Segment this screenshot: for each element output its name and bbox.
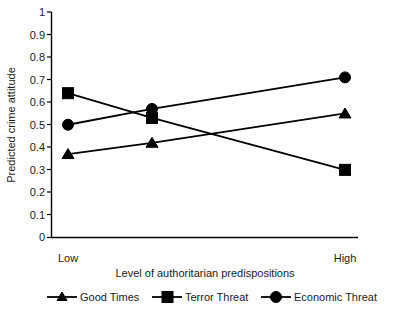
- series-line-terror-threat: [68, 93, 345, 170]
- y-axis-title: Predicted crime attitude: [5, 67, 17, 183]
- chart-legend: Good Times Terror Threat Economic Threat: [47, 291, 377, 303]
- series-markers-economic-threat: [63, 72, 351, 130]
- y-tick-label: 0.6: [30, 96, 45, 108]
- y-tick-label: 0.4: [30, 141, 45, 153]
- y-tick-label: 1: [39, 6, 45, 18]
- legend-label: Economic Threat: [294, 291, 377, 303]
- y-tick-label: 0.5: [30, 119, 45, 131]
- circle-icon: [271, 292, 282, 303]
- series-line-economic-threat: [68, 77, 345, 124]
- data-point-marker: [339, 108, 351, 118]
- data-point-marker: [147, 103, 158, 114]
- data-point-marker: [63, 119, 74, 130]
- y-tick-label: 0: [39, 231, 45, 243]
- legend-label: Terror Threat: [185, 291, 248, 303]
- line-chart-svg: Predicted crime attitude 1 0.9 0.8 0.7 0…: [0, 0, 400, 310]
- x-axis-title: Level of authoritarian predispositions: [115, 267, 295, 279]
- series-line-good-times: [68, 113, 345, 154]
- legend-label: Good Times: [80, 291, 140, 303]
- legend-item-economic-threat[interactable]: Economic Threat: [261, 291, 377, 303]
- series-economic-threat: [63, 72, 351, 130]
- y-tick-label: 0.9: [30, 29, 45, 41]
- y-tick-label: 0.3: [30, 164, 45, 176]
- chart-figure: Predicted crime attitude 1 0.9 0.8 0.7 0…: [0, 0, 400, 310]
- legend-item-terror-threat[interactable]: Terror Threat: [152, 291, 248, 303]
- y-tick-label: 0.8: [30, 51, 45, 63]
- y-tick-label: 0.2: [30, 186, 45, 198]
- y-tick-label: 0.7: [30, 74, 45, 86]
- data-point-marker: [63, 88, 74, 99]
- y-tick-label: 0.1: [30, 209, 45, 221]
- data-point-marker: [340, 72, 351, 83]
- data-point-marker: [340, 164, 351, 175]
- legend-item-good-times[interactable]: Good Times: [47, 291, 140, 303]
- square-icon: [162, 292, 173, 303]
- x-tick-label-high: High: [334, 252, 357, 264]
- y-tick-labels: 1 0.9 0.8 0.7 0.6 0.5 0.4 0.3 0.2 0.1 0: [30, 6, 45, 243]
- x-tick-label-low: Low: [58, 252, 78, 264]
